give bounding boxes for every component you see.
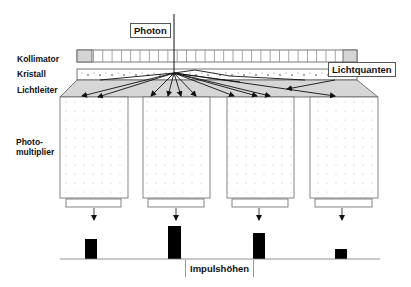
lightguide — [60, 80, 378, 97]
photomultiplier-label-line1: Photo- — [16, 137, 43, 147]
pmt-bases — [66, 199, 372, 207]
lightguide-label: Lichtleiter — [17, 85, 58, 95]
collimator-label: Kollimator — [17, 54, 59, 64]
collimator — [77, 50, 357, 62]
photomultiplier-label-line2: multiplier — [16, 147, 54, 157]
pulse-bars — [85, 226, 347, 259]
photomultiplier-array — [60, 97, 378, 198]
output-arrows — [94, 208, 342, 220]
photon-label: Photon — [130, 23, 171, 38]
scintillation-camera-diagram — [0, 0, 411, 287]
crystal-label: Kristall — [17, 69, 46, 79]
pulse-heights-label: Impulshöhen — [185, 260, 254, 277]
light-quanta-label: Lichtquanten — [328, 62, 396, 77]
